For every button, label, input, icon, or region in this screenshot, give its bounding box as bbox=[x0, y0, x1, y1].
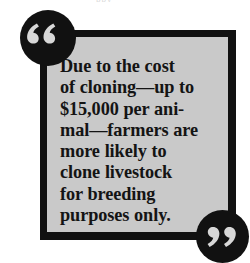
close-quote-icon bbox=[196, 210, 249, 263]
cropped-top-text-sliver: ppy bbox=[96, 0, 148, 2]
open-quote-icon bbox=[20, 10, 76, 66]
quote-text: Due to the cost of cloning—up to $15,000… bbox=[60, 56, 226, 226]
